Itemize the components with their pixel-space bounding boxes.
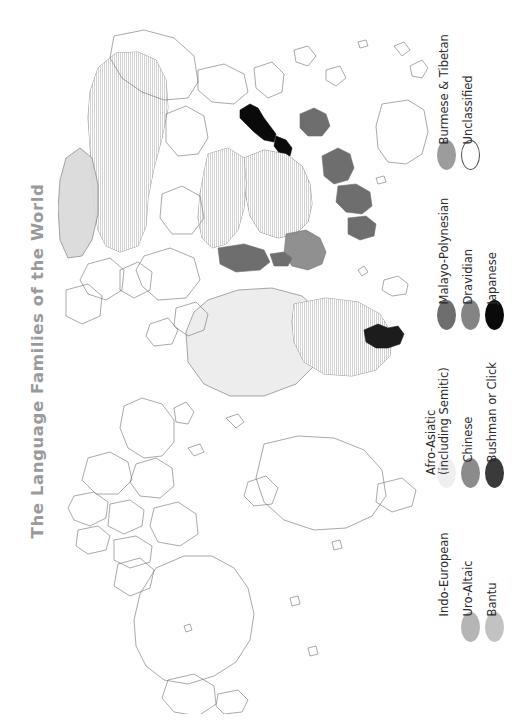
region-malayo-polynesian-2	[336, 184, 372, 214]
map-page: The Language Families of the World	[0, 0, 531, 722]
region-malayo-polynesian-4	[300, 108, 330, 136]
region-bushman-click	[364, 324, 404, 348]
coastline-midband-2	[160, 186, 204, 234]
island-atlantic-1	[332, 540, 342, 550]
coastline-kamchatka	[254, 62, 284, 98]
legend-swatch-bantu	[485, 612, 504, 642]
legend-label-indo-european: Indo-European	[438, 532, 451, 616]
coastline-greenland	[120, 398, 174, 458]
coastline-arctic-islands-5	[76, 526, 110, 554]
region-burmese-tibetan-hatch	[198, 148, 246, 248]
coastline-greenland-2	[174, 402, 194, 424]
coastline-midband-5	[80, 258, 124, 300]
map-legend: Burmese & Tibetan Unclassified Malayo-Po…	[424, 0, 531, 722]
region-chinese-hatch	[242, 150, 312, 238]
coastline-alaska	[114, 558, 154, 596]
coastline-south-america	[256, 436, 386, 530]
island-madagascar	[382, 276, 408, 296]
map-layer-shapes	[58, 30, 428, 714]
coastline-caribbean	[216, 690, 248, 714]
legend-label-bantu: Bantu	[486, 582, 499, 616]
coastline-arctic-islands-3	[68, 492, 108, 526]
coastline-midband-6	[66, 284, 102, 324]
island-pacific-1	[358, 40, 368, 48]
legend-group-4: Indo-European Uro-Altaic Bantu	[424, 0, 531, 722]
coastline-midband-4	[120, 262, 152, 298]
region-malayo-polynesian-1	[322, 148, 354, 184]
region-malayo-polynesian-3	[348, 216, 376, 240]
region-australia-outline	[376, 100, 428, 164]
coastline-south-america-3	[244, 476, 278, 506]
region-japanese-islands	[240, 104, 276, 142]
coastline-north-america	[134, 556, 254, 684]
island-pacific-3	[184, 624, 192, 632]
world-map-svg	[58, 8, 430, 714]
island-small-1	[358, 266, 368, 276]
coastline-arctic-islands-1	[82, 452, 132, 494]
legend-label-uro-altaic: Uro-Altaic	[462, 560, 475, 616]
world-map[interactable]	[58, 8, 430, 714]
coastline-arctic-islands-4	[108, 500, 144, 534]
coastline-misc-1	[294, 46, 316, 66]
legend-swatch-uro-altaic	[461, 612, 480, 642]
coastline-south-america-2	[376, 478, 416, 512]
coastline-misc-2	[326, 66, 346, 86]
island-atlantic-3	[308, 646, 318, 656]
coastline-europe-2	[146, 318, 178, 346]
coastline-fleck-2	[188, 444, 204, 456]
page-title: The Language Families of the World	[28, 184, 47, 539]
island-atlantic-2	[290, 596, 300, 606]
island-pacific-2	[376, 176, 386, 184]
coastline-arctic-islands-2	[130, 458, 174, 498]
coastline-mexico	[162, 674, 216, 714]
coastline-fleck-1	[226, 414, 244, 428]
region-dravidian	[284, 230, 326, 270]
island-nz-2	[394, 42, 410, 56]
legend-swatch-indo-european	[437, 612, 456, 642]
region-indo-european-west	[58, 148, 98, 258]
coastline-arctic-2	[198, 64, 248, 104]
coastline-arctic-islands-7	[150, 502, 198, 546]
region-malayo-polynesian-5	[218, 244, 270, 272]
coastline-midband-1	[166, 106, 208, 156]
